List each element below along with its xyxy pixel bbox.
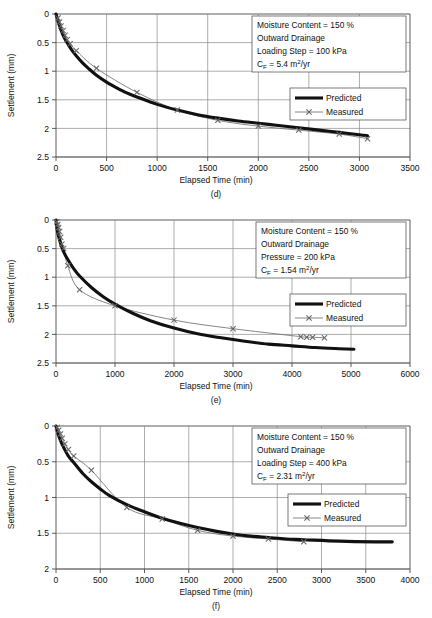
measured-data-point [94, 66, 99, 71]
legend-label-predicted: Predicted [324, 499, 360, 509]
y-tick-label: 2 [44, 330, 49, 340]
x-tick-label: 1000 [135, 575, 154, 585]
x-tick-label: 1500 [179, 575, 198, 585]
x-tick-label: 500 [93, 575, 108, 585]
y-tick-label: 1.5 [37, 301, 49, 311]
annotation-line: Moisture Content = 150 % [257, 432, 355, 442]
measured-data-point [89, 468, 94, 473]
chart-panel-d: 00.511.522.50500100015002000250030003500… [0, 0, 432, 206]
x-tick-label: 0 [54, 575, 59, 585]
y-tick-label: 2.5 [37, 358, 49, 368]
x-tick-label: 6000 [400, 369, 419, 379]
x-tick-label: 4000 [282, 369, 301, 379]
x-tick-label: 3500 [356, 575, 375, 585]
y-tick-label: 2 [44, 124, 49, 134]
x-tick-label: 1500 [198, 163, 217, 173]
annotation-line: Loading Step = 400 kPa [257, 458, 347, 468]
y-tick-label: 0 [44, 421, 49, 431]
annotation-line: Moisture Content = 150 % [257, 20, 355, 30]
measured-data-point [65, 263, 70, 268]
x-tick-label: 2500 [268, 575, 287, 585]
legend-label-predicted: Predicted [326, 93, 362, 103]
y-tick-label: 2 [44, 564, 49, 574]
x-tick-label: 2000 [249, 163, 268, 173]
legend-box: PredictedMeasured [290, 88, 406, 120]
x-tick-label: 1000 [105, 369, 124, 379]
panel-caption-e: (e) [0, 395, 432, 405]
annotation-line: Outward Drainage [261, 239, 329, 249]
legend-box: PredictedMeasured [288, 494, 406, 526]
plot-area-e: 00.511.522.50100020003000400050006000Set… [0, 206, 432, 388]
legend-box: PredictedMeasured [290, 294, 406, 326]
chart-svg-e: 00.511.522.50100020003000400050006000Set… [0, 206, 432, 388]
y-tick-label: 0 [44, 215, 49, 225]
x-tick-label: 1000 [148, 163, 167, 173]
y-tick-label: 1 [44, 493, 49, 503]
annotation-line: Pressure = 200 kPa [261, 252, 335, 262]
x-tick-label: 0 [54, 369, 59, 379]
annotation-line: Outward Drainage [257, 33, 325, 43]
x-tick-label: 2000 [223, 575, 242, 585]
annotation-box: Moisture Content = 150 %Outward Drainage… [256, 222, 406, 278]
legend-label-predicted: Predicted [326, 299, 362, 309]
chart-panel-e: 00.511.522.50100020003000400050006000Set… [0, 206, 432, 412]
chart-svg-d: 00.511.522.50500100015002000250030003500… [0, 0, 432, 182]
x-tick-label: 3000 [350, 163, 369, 173]
legend-label-measured: Measured [326, 313, 364, 323]
y-tick-label: 1.5 [37, 95, 49, 105]
measured-data-point [71, 453, 76, 458]
x-tick-label: 2000 [164, 369, 183, 379]
measured-data-point [74, 48, 79, 53]
measured-data-point [66, 447, 71, 452]
x-tick-label: 4000 [400, 575, 419, 585]
annotation-box: Moisture Content = 150 %Outward Drainage… [252, 16, 406, 72]
annotation-line: Outward Drainage [257, 445, 325, 455]
cf-value: = 1.54 m [271, 265, 306, 275]
y-tick-label: 0.5 [37, 38, 49, 48]
x-tick-label: 2500 [299, 163, 318, 173]
annotation-line: Moisture Content = 150 % [261, 226, 359, 236]
x-tick-label: 5000 [341, 369, 360, 379]
y-tick-label: 1.5 [37, 528, 49, 538]
chart-svg-f: 00.511.520500100015002000250030003500400… [0, 412, 432, 594]
y-tick-label: 0.5 [37, 244, 49, 254]
x-tick-label: 3000 [312, 575, 331, 585]
chart-panel-f: 00.511.520500100015002000250030003500400… [0, 412, 432, 618]
cf-unit: /yr [309, 265, 319, 275]
legend-label-measured: Measured [326, 107, 364, 117]
x-tick-label: 3500 [400, 163, 419, 173]
panel-caption-d: (d) [0, 189, 432, 199]
x-axis-label-e: Elapsed Time (min) [0, 381, 432, 391]
y-axis-label: Settlement (mm) [6, 54, 16, 118]
y-tick-label: 0 [44, 9, 49, 19]
cf-value: = 5.4 m [267, 59, 298, 69]
y-axis-label: Settlement (mm) [6, 260, 16, 324]
y-tick-label: 2.5 [37, 152, 49, 162]
x-tick-label: 3000 [223, 369, 242, 379]
annotation-box: Moisture Content = 150 %Outward Drainage… [252, 428, 406, 484]
x-tick-label: 0 [54, 163, 59, 173]
y-axis-label: Settlement (mm) [6, 466, 16, 530]
x-tick-label: 500 [99, 163, 114, 173]
plot-area-d: 00.511.522.50500100015002000250030003500… [0, 0, 432, 182]
cf-value: = 2.31 m [267, 471, 302, 481]
measured-data-point [134, 90, 139, 95]
x-axis-label-d: Elapsed Time (min) [0, 175, 432, 185]
figure-settlement-curves: 00.511.522.50500100015002000250030003500… [0, 0, 432, 618]
y-tick-label: 1 [44, 66, 49, 76]
x-axis-label-f: Elapsed Time (min) [0, 587, 432, 597]
cf-unit: /yr [301, 59, 311, 69]
cf-unit: /yr [305, 471, 315, 481]
measured-data-point [77, 287, 82, 292]
plot-area-f: 00.511.520500100015002000250030003500400… [0, 412, 432, 594]
panel-caption-f: (f) [0, 601, 432, 611]
y-tick-label: 1 [44, 272, 49, 282]
annotation-line: Loading Step = 100 kPa [257, 46, 347, 56]
legend-label-measured: Measured [324, 513, 362, 523]
y-tick-label: 0.5 [37, 457, 49, 467]
